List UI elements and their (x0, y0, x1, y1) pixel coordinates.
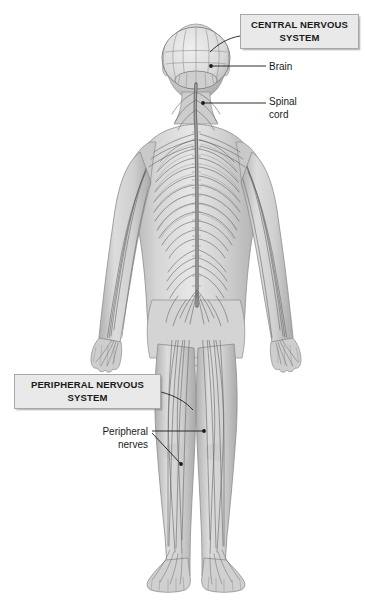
nervous-system-diagram: CENTRAL NERVOUS SYSTEM PERIPHERAL NERVOU… (0, 0, 365, 611)
label-spinal-cord: Spinal cord (269, 95, 297, 121)
callout-central-nervous-system: CENTRAL NERVOUS SYSTEM (240, 14, 359, 49)
anatomy-illustration (0, 0, 365, 611)
callout-pns-label: PERIPHERAL NERVOUS SYSTEM (15, 379, 160, 404)
callout-peripheral-nervous-system: PERIPHERAL NERVOUS SYSTEM (14, 374, 161, 409)
leader-dot-peripheral-upper (202, 429, 206, 433)
hand-right (270, 338, 301, 372)
brain (162, 27, 230, 89)
hand-left (91, 338, 122, 372)
label-brain: Brain (269, 60, 292, 73)
knee-right (203, 443, 229, 461)
leader-dot-peripheral-lower (179, 462, 183, 466)
callout-cns-label: CENTRAL NERVOUS SYSTEM (241, 19, 358, 44)
leader-dot-brain (209, 64, 213, 68)
label-peripheral-nerves: Peripheral nerves (76, 425, 148, 451)
leader-dot-spinal-cord (201, 101, 205, 105)
